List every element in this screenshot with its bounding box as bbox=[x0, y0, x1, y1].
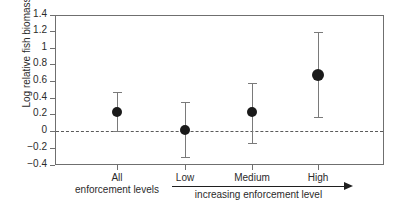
y-tick-3: 1 bbox=[0, 48, 55, 49]
y-tick-8: 0 bbox=[0, 131, 55, 132]
y-tick-label: 0.2 bbox=[33, 107, 47, 119]
arrow-right-icon bbox=[344, 182, 353, 190]
x-tick-label-low: Low bbox=[176, 172, 194, 184]
error-bar-cap-lower bbox=[248, 143, 257, 144]
increasing-trend-label: increasing enforcement level bbox=[172, 189, 345, 201]
x-tick-label-high: High bbox=[308, 172, 329, 184]
x-tick-mark-low bbox=[185, 165, 186, 170]
x-tick-label-high-line1: High bbox=[308, 172, 329, 183]
y-tick-label: −0.4 bbox=[27, 158, 47, 170]
zero-reference-line bbox=[56, 131, 383, 132]
y-tick-2: 1.2 bbox=[0, 31, 55, 32]
x-tick-mark-all bbox=[117, 165, 118, 170]
y-tick-5: 0.6 bbox=[0, 81, 55, 82]
error-bar-cap-upper bbox=[113, 92, 122, 93]
error-bar-cap-lower bbox=[181, 157, 190, 158]
error-bar-cap-upper bbox=[181, 102, 190, 103]
x-tick-label-low-line1: Low bbox=[176, 172, 194, 183]
x-tick-label-medium-line1: Medium bbox=[234, 172, 270, 183]
y-axis-title: Log relative fish biomass bbox=[21, 0, 32, 133]
y-tick-label: 0.6 bbox=[33, 74, 47, 86]
y-tick-label: 1.4 bbox=[33, 8, 47, 20]
y-tick-label: 0 bbox=[41, 124, 47, 136]
x-tick-label-medium: Medium bbox=[234, 172, 270, 184]
y-tick-7: 0.2 bbox=[0, 114, 55, 115]
y-tick-9: −0.2 bbox=[0, 148, 55, 149]
y-tick-label: 1 bbox=[41, 41, 47, 53]
y-tick-label: 0.8 bbox=[33, 57, 47, 69]
figure-container: Log relative fish biomass 1.4 1.2 1 0.8 … bbox=[0, 0, 399, 206]
increasing-trend-arrow-line bbox=[172, 186, 345, 187]
data-marker[interactable] bbox=[180, 125, 190, 135]
y-tick-4: 0.8 bbox=[0, 64, 55, 65]
y-tick-1: 1.4 bbox=[0, 15, 55, 16]
error-bar-cap-upper bbox=[314, 32, 323, 33]
y-tick-label: 1.2 bbox=[33, 24, 47, 36]
y-tick-label: −0.2 bbox=[27, 141, 47, 153]
y-tick-6: 0.4 bbox=[0, 98, 55, 99]
data-marker[interactable] bbox=[312, 69, 324, 81]
y-tick-label: 0.4 bbox=[33, 91, 47, 103]
x-tick-mark-high bbox=[318, 165, 319, 170]
x-tick-label-all-line1: All bbox=[111, 172, 122, 183]
data-marker[interactable] bbox=[247, 107, 257, 117]
y-tick-mark bbox=[50, 165, 55, 166]
x-tick-label-all: All enforcement levels bbox=[75, 172, 159, 196]
error-bar-cap-upper bbox=[248, 83, 257, 84]
x-tick-mark-medium bbox=[252, 165, 253, 170]
plot-area bbox=[55, 15, 384, 165]
error-bar-cap-lower bbox=[314, 117, 323, 118]
x-tick-label-all-line2: enforcement levels bbox=[75, 184, 159, 196]
data-marker[interactable] bbox=[112, 107, 122, 117]
error-bar-cap-lower bbox=[113, 131, 122, 132]
y-tick-10: −0.4 bbox=[0, 165, 55, 166]
